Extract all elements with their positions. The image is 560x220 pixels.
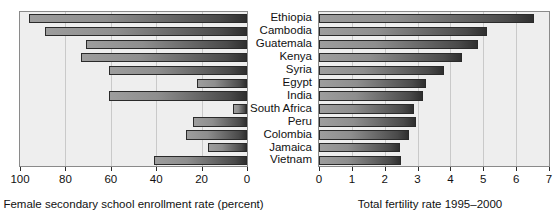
bar-row <box>20 129 247 142</box>
bar-row <box>20 51 247 64</box>
left-chart-plot-area <box>19 11 248 167</box>
bar-ethiopia <box>29 14 247 23</box>
country-label-syria: Syria <box>286 63 312 76</box>
country-label-india: India <box>287 89 312 102</box>
left-tick-label-60: 60 <box>104 173 117 185</box>
left-tick-80 <box>65 167 66 171</box>
bar-egypt <box>319 79 426 88</box>
left-tick-label-100: 100 <box>10 173 29 185</box>
right-tick-label-5: 5 <box>480 173 486 185</box>
bar-row <box>319 154 549 167</box>
right-chart-bars <box>319 12 549 166</box>
right-tick-label-7: 7 <box>546 173 552 185</box>
bar-row <box>20 38 247 51</box>
left-tick-label-0: 0 <box>244 173 250 185</box>
country-label-column: EthiopiaCambodiaGuatemalaKenyaSyriaEgypt… <box>248 11 312 167</box>
bar-row <box>319 142 549 155</box>
right-tick-4 <box>450 167 451 171</box>
left-tick-0 <box>247 167 248 171</box>
country-label-vietnam: Vietnam <box>270 153 312 166</box>
bar-row <box>319 90 549 103</box>
left-tick-label-20: 20 <box>195 173 208 185</box>
left-chart-bars <box>20 12 247 166</box>
left-tick-label-40: 40 <box>150 173 163 185</box>
right-tick-label-4: 4 <box>447 173 453 185</box>
bar-colombia <box>186 130 247 139</box>
bar-kenya <box>81 53 247 62</box>
left-tick-40 <box>156 167 157 171</box>
bar-cambodia <box>319 27 487 36</box>
country-label-colombia: Colombia <box>263 128 312 141</box>
bar-kenya <box>319 53 462 62</box>
right-tick-2 <box>385 167 386 171</box>
bar-india <box>109 91 247 100</box>
country-label-peru: Peru <box>288 115 312 128</box>
bar-row <box>20 12 247 25</box>
bar-india <box>319 91 423 100</box>
left-tick-20 <box>202 167 203 171</box>
bar-cambodia <box>45 27 247 36</box>
bar-peru <box>193 117 247 126</box>
bar-syria <box>109 66 247 75</box>
bar-row <box>319 64 549 77</box>
bar-row <box>20 77 247 90</box>
bar-row <box>319 103 549 116</box>
bar-row <box>319 51 549 64</box>
right-tick-1 <box>352 167 353 171</box>
country-label-kenya: Kenya <box>279 50 312 63</box>
right-chart-x-axis-label: Total fertility rate 1995–2000 <box>300 197 560 211</box>
right-tick-label-3: 3 <box>414 173 420 185</box>
right-tick-5 <box>483 167 484 171</box>
right-tick-7 <box>549 167 550 171</box>
left-chart-x-axis-label: Female secondary school enrollment rate … <box>0 197 267 211</box>
bar-ethiopia <box>319 14 534 23</box>
bar-jamaica <box>319 143 400 152</box>
bar-south-africa <box>233 104 247 113</box>
bar-row <box>319 12 549 25</box>
right-tick-label-1: 1 <box>349 173 355 185</box>
bar-egypt <box>197 79 247 88</box>
bar-guatemala <box>86 40 247 49</box>
bar-syria <box>319 66 444 75</box>
paired-bar-chart-figure: 100806040200 EthiopiaCambodiaGuatemalaKe… <box>0 0 560 220</box>
right-tick-6 <box>516 167 517 171</box>
bar-row <box>20 154 247 167</box>
bar-guatemala <box>319 40 478 49</box>
right-chart-plot-area <box>318 11 550 167</box>
country-label-jamaica: Jamaica <box>269 141 312 154</box>
country-label-cambodia: Cambodia <box>260 24 312 37</box>
bar-jamaica <box>208 143 247 152</box>
bar-row <box>20 64 247 77</box>
country-label-ethiopia: Ethiopia <box>270 11 312 24</box>
bar-vietnam <box>154 156 247 165</box>
bar-row <box>319 38 549 51</box>
bar-vietnam <box>319 156 401 165</box>
right-tick-label-2: 2 <box>382 173 388 185</box>
bar-row <box>20 103 247 116</box>
left-tick-100 <box>20 167 21 171</box>
bar-row <box>319 25 549 38</box>
bar-row <box>319 77 549 90</box>
bar-row <box>20 25 247 38</box>
country-label-guatemala: Guatemala <box>256 37 312 50</box>
bar-south-africa <box>319 104 414 113</box>
right-tick-3 <box>418 167 419 171</box>
bar-row <box>20 90 247 103</box>
bar-row <box>20 116 247 129</box>
bar-row <box>20 142 247 155</box>
country-label-south-africa: South Africa <box>250 102 312 115</box>
country-label-egypt: Egypt <box>283 76 312 89</box>
right-tick-label-0: 0 <box>316 173 322 185</box>
bar-colombia <box>319 130 409 139</box>
left-tick-60 <box>111 167 112 171</box>
right-tick-label-6: 6 <box>513 173 519 185</box>
right-tick-0 <box>319 167 320 171</box>
bar-row <box>319 129 549 142</box>
bar-row <box>319 116 549 129</box>
bar-peru <box>319 117 416 126</box>
left-tick-label-80: 80 <box>59 173 72 185</box>
